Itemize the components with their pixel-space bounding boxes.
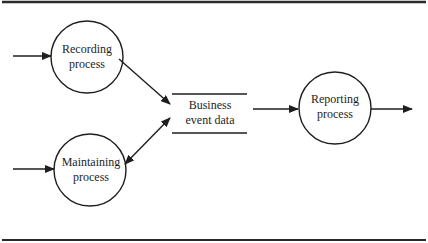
data-store-label-line2: event data	[186, 113, 235, 128]
maintaining-process-label: Maintaining process	[62, 155, 121, 185]
data-store-label-line1: Business	[186, 98, 235, 113]
recording-process-label-line2: process	[62, 57, 112, 72]
recording-process-label: Recording process	[62, 42, 112, 72]
data-store-label: Business event data	[186, 98, 235, 128]
recording-to-store-arrow	[119, 59, 170, 104]
maintaining-process-label-line2: process	[62, 170, 121, 185]
reporting-process-label-line1: Reporting	[311, 92, 359, 107]
recording-process-label-line1: Recording	[62, 42, 112, 57]
reporting-process-label: Reporting process	[311, 92, 359, 122]
maintaining-store-bidirectional-arrow	[125, 118, 170, 164]
reporting-process-label-line2: process	[311, 107, 359, 122]
maintaining-process-label-line1: Maintaining	[62, 155, 121, 170]
